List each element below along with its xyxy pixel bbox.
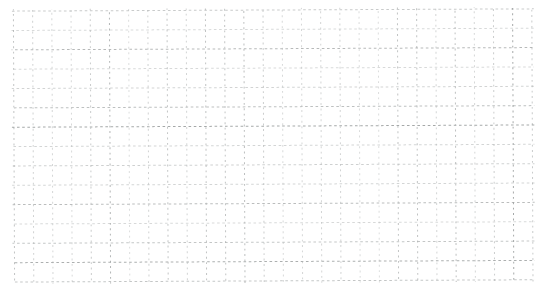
graph-paper-page <box>0 0 552 293</box>
grid-line <box>474 7 475 282</box>
grid-line <box>436 7 437 282</box>
grid-line <box>71 9 72 284</box>
grid-line <box>148 9 149 284</box>
grid-line <box>340 8 341 283</box>
dashed-grid-canvas <box>0 0 552 293</box>
grid-line <box>263 8 264 283</box>
grid-line <box>167 8 168 283</box>
grid-line <box>532 7 533 282</box>
grid-line <box>90 9 91 284</box>
grid-line <box>417 7 418 282</box>
grid-line <box>33 9 34 284</box>
dashed-grid-lines <box>11 7 535 284</box>
grid-line <box>513 7 514 282</box>
grid-line <box>493 7 494 282</box>
grid-line <box>282 8 283 283</box>
grid-line <box>225 8 226 283</box>
